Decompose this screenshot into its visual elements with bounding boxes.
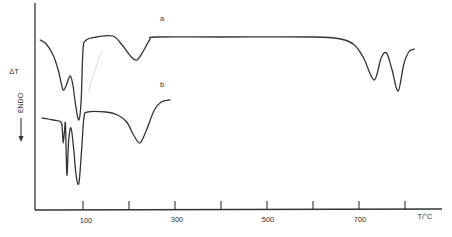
x-axis-line [35,209,442,210]
x-tick-label-100: 100 [80,216,93,225]
series-label-a: a [160,14,165,23]
series-label-b: b [160,80,164,89]
y-axis-title: ΔT [9,67,19,76]
x-tick-label-500: 500 [262,215,275,224]
endo-arrow-icon [19,118,24,142]
x-tick-label-700: 700 [354,215,367,224]
x-axis-title: T/°C [417,212,433,221]
curve-a [40,36,414,121]
dta-chart: 100 300 500 700 T/°C ΔT ENDO a b [0,0,452,237]
scan-artifact [88,50,102,92]
x-tick-label-300: 300 [171,215,184,224]
endo-label: ENDO [17,92,24,113]
curve-b [42,100,170,184]
